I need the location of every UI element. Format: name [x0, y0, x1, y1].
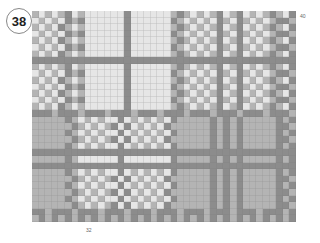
grid-cell	[32, 57, 39, 64]
grid-cell	[263, 44, 270, 51]
grid-cell	[39, 70, 46, 77]
grid-cell	[164, 64, 171, 71]
grid-cell	[270, 90, 277, 97]
grid-cell	[177, 215, 184, 222]
grid-cell	[204, 136, 211, 143]
grid-cell	[289, 149, 296, 156]
grid-cell	[157, 64, 164, 71]
grid-cell	[223, 196, 230, 203]
grid-cell	[131, 130, 138, 137]
grid-cell	[39, 189, 46, 196]
grid-cell	[190, 149, 197, 156]
grid-cell	[263, 123, 270, 130]
grid-cell	[32, 51, 39, 58]
grid-cell	[289, 176, 296, 183]
grid-cell	[58, 163, 65, 170]
grid-cell	[283, 215, 290, 222]
grid-cell	[52, 31, 59, 38]
grid-cell	[184, 156, 191, 163]
grid-cell	[105, 202, 112, 209]
grid-cell	[151, 77, 158, 84]
grid-cell	[164, 169, 171, 176]
grid-cell	[105, 136, 112, 143]
grid-cell	[223, 130, 230, 137]
grid-cell	[78, 97, 85, 104]
grid-cell	[98, 44, 105, 51]
grid-cell	[105, 44, 112, 51]
grid-cell	[184, 123, 191, 130]
grid-cell	[210, 196, 217, 203]
grid-cell	[52, 149, 59, 156]
grid-cell	[124, 110, 131, 117]
grid-cell	[190, 11, 197, 18]
grid-cell	[111, 169, 118, 176]
grid-cell	[230, 51, 237, 58]
grid-cell	[144, 18, 151, 25]
grid-cell	[237, 70, 244, 77]
grid-cell	[210, 169, 217, 176]
grid-cell	[263, 182, 270, 189]
grid-cell	[144, 57, 151, 64]
grid-cell	[204, 84, 211, 91]
grid-cell	[78, 90, 85, 97]
grid-cell	[138, 149, 145, 156]
grid-cell	[164, 77, 171, 84]
grid-cell	[32, 70, 39, 77]
grid-cell	[131, 70, 138, 77]
grid-cell	[32, 130, 39, 137]
grid-cell	[78, 18, 85, 25]
grid-cell	[45, 70, 52, 77]
grid-cell	[243, 202, 250, 209]
grid-cell	[237, 90, 244, 97]
grid-cell	[98, 103, 105, 110]
grid-cell	[283, 11, 290, 18]
grid-cell	[190, 18, 197, 25]
grid-cell	[210, 156, 217, 163]
grid-cell	[237, 31, 244, 38]
grid-cell	[32, 123, 39, 130]
grid-cell	[243, 70, 250, 77]
grid-cell	[131, 84, 138, 91]
grid-cell	[217, 84, 224, 91]
grid-cell	[118, 77, 125, 84]
grid-cell	[91, 51, 98, 58]
grid-cell	[164, 189, 171, 196]
grid-cell	[72, 209, 79, 216]
grid-cell	[124, 24, 131, 31]
grid-cell	[151, 202, 158, 209]
grid-cell	[65, 169, 72, 176]
grid-cell	[111, 90, 118, 97]
grid-cell	[52, 103, 59, 110]
grid-cell	[138, 123, 145, 130]
grid-cell	[124, 149, 131, 156]
grid-cell	[39, 117, 46, 124]
grid-cell	[118, 11, 125, 18]
grid-cell	[118, 209, 125, 216]
grid-cell	[210, 18, 217, 25]
grid-cell	[177, 77, 184, 84]
grid-cell	[118, 156, 125, 163]
grid-cell	[138, 11, 145, 18]
grid-cell	[263, 64, 270, 71]
grid-cell	[144, 209, 151, 216]
grid-cell	[190, 24, 197, 31]
grid-cell	[157, 196, 164, 203]
grid-cell	[157, 182, 164, 189]
grid-cell	[190, 182, 197, 189]
grid-cell	[270, 189, 277, 196]
grid-cell	[157, 110, 164, 117]
grid-cell	[250, 11, 257, 18]
grid-cell	[39, 24, 46, 31]
grid-cell	[151, 90, 158, 97]
grid-cell	[39, 11, 46, 18]
grid-cell	[204, 110, 211, 117]
grid-cell	[223, 163, 230, 170]
grid-cell	[85, 163, 92, 170]
grid-cell	[237, 149, 244, 156]
grid-cell	[39, 97, 46, 104]
grid-cell	[39, 149, 46, 156]
grid-cell	[105, 70, 112, 77]
grid-cell	[65, 44, 72, 51]
grid-cell	[190, 64, 197, 71]
grid-cell	[118, 70, 125, 77]
